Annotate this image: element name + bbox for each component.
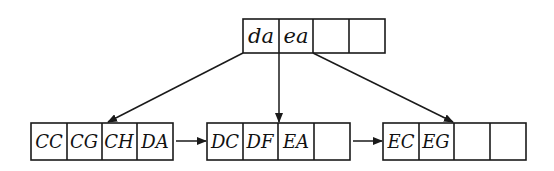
leaf-node-1: CC CG CH DA xyxy=(31,123,173,160)
leaf-1-key-4: DA xyxy=(140,131,168,152)
leaf-1-key-1: CC xyxy=(35,131,63,152)
leaf-2-key-2: DF xyxy=(246,131,275,152)
leaf-node-3: EC EG xyxy=(383,123,526,160)
b-tree-diagram: da ea CC CG CH DA DC DF EA xyxy=(0,0,554,171)
root-key-1: da xyxy=(248,24,274,48)
pointer-arrow-leaf-3 xyxy=(313,53,453,122)
leaf-node-2: DC DF EA xyxy=(207,123,350,160)
root-node: da ea xyxy=(243,19,385,53)
leaf-3-key-1: EC xyxy=(387,131,415,152)
root-key-2: ea xyxy=(284,24,309,48)
leaf-2-key-1: DC xyxy=(210,131,239,152)
pointer-arrow-leaf-1 xyxy=(108,53,243,122)
leaf-3-key-2: EG xyxy=(421,131,450,152)
root-pointers xyxy=(108,53,453,122)
leaf-1-key-2: CG xyxy=(70,131,98,152)
leaf-2-key-3: EA xyxy=(282,131,309,152)
leaf-1-key-3: CH xyxy=(104,131,134,152)
